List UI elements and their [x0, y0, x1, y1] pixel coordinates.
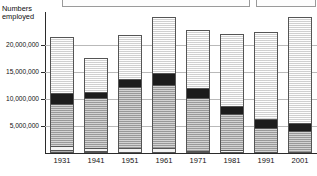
- x-axis-label-1991: 1991: [249, 156, 283, 165]
- bar-segment-segment-5-1951: [119, 36, 141, 79]
- bar-1961[interactable]: [152, 17, 176, 153]
- bar-segment-segment-3-1981: [221, 115, 243, 149]
- bar-1991[interactable]: [254, 32, 278, 153]
- x-axis-label-1931: 1931: [45, 156, 79, 165]
- y-axis-tick-label: 20,000,000: [0, 41, 39, 48]
- bar-segment-segment-5-2001: [289, 18, 311, 123]
- bar-segment-segment-5-1941: [85, 59, 107, 92]
- bar-1951[interactable]: [118, 35, 142, 153]
- bar-segment-segment-3-2001: [289, 132, 311, 153]
- bar-segment-segment-3-1961: [153, 86, 175, 148]
- bar-1931[interactable]: [50, 37, 74, 153]
- bar-2001[interactable]: [288, 17, 312, 153]
- y-axis-title: Numbers employed: [2, 5, 48, 22]
- bar-segment-segment-4-1951: [119, 80, 141, 87]
- bar-segment-segment-2-1971: [187, 152, 209, 153]
- bar-segment-segment-3-1931: [51, 105, 73, 146]
- bar-segment-segment-4-1991: [255, 120, 277, 127]
- x-axis-label-1981: 1981: [215, 156, 249, 165]
- bar-segment-segment-3-1941: [85, 99, 107, 147]
- plot-area: [45, 12, 317, 153]
- legend-box-primary-label: [63, 0, 249, 6]
- bar-segment-segment-4-2001: [289, 124, 311, 131]
- bar-segment-segment-3-1951: [119, 88, 141, 148]
- x-axis-label-1941: 1941: [79, 156, 113, 165]
- legend-box-secondary-label: [257, 0, 315, 6]
- bar-segment-segment-5-1981: [221, 35, 243, 106]
- legend-box-secondary[interactable]: [256, 0, 316, 7]
- x-axis-line: [45, 153, 317, 154]
- bar-segment-segment-1-1931: [51, 151, 73, 153]
- bar-segment-segment-5-1971: [187, 31, 209, 88]
- x-axis-label-1971: 1971: [181, 156, 215, 165]
- bar-segment-segment-3-1971: [187, 99, 209, 151]
- chart-figure: Numbers employed 5,000,00010,000,00015,0…: [0, 0, 317, 176]
- bar-segment-segment-4-1961: [153, 74, 175, 85]
- bar-segment-segment-3-1991: [255, 129, 277, 153]
- bar-segment-segment-2-1981: [221, 151, 243, 153]
- y-axis-tick-label: 10,000,000: [0, 95, 39, 102]
- bar-segment-segment-5-1961: [153, 18, 175, 73]
- x-axis-label-1961: 1961: [147, 156, 181, 165]
- y-axis-tick-label: 5,000,000: [0, 122, 39, 129]
- x-axis-label-2001: 2001: [283, 156, 317, 165]
- bar-1971[interactable]: [186, 30, 210, 153]
- legend-box-primary[interactable]: [62, 0, 250, 7]
- y-axis-tick-label: 15,000,000: [0, 68, 39, 75]
- bar-segment-segment-5-1991: [255, 33, 277, 119]
- bar-segment-segment-4-1971: [187, 89, 209, 98]
- y-axis-title-line2: employed: [2, 13, 48, 21]
- bar-1981[interactable]: [220, 34, 244, 153]
- bar-segment-segment-5-1931: [51, 38, 73, 93]
- x-axis-label-1951: 1951: [113, 156, 147, 165]
- bar-segment-segment-4-1931: [51, 94, 73, 104]
- bar-segment-segment-4-1981: [221, 107, 243, 114]
- bar-1941[interactable]: [84, 58, 108, 153]
- bar-segment-segment-1-1941: [85, 152, 107, 153]
